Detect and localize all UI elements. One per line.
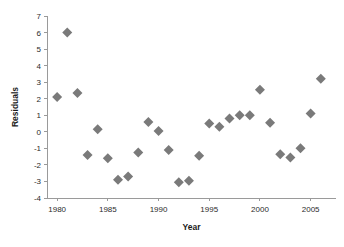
data-point: [62, 28, 72, 38]
data-point: [275, 149, 285, 159]
y-axis-group: -4-3-2-101234567: [34, 12, 47, 203]
data-point: [285, 152, 295, 162]
data-point: [296, 143, 306, 153]
data-point: [154, 126, 164, 136]
y-axis-title: Residuals: [10, 87, 20, 127]
data-point: [194, 151, 204, 161]
x-axis-tick-labels: 198019851990199520002005: [48, 205, 320, 214]
data-point: [83, 150, 93, 160]
y-tick-label: -4: [34, 194, 42, 203]
y-tick-label: 3: [37, 78, 42, 87]
residuals-scatter-chart: -4-3-2-101234567 19801985199019952000200…: [0, 0, 344, 247]
data-point: [113, 175, 123, 185]
y-tick-label: 7: [37, 12, 42, 21]
data-point: [225, 114, 235, 124]
y-tick-label: -2: [34, 161, 42, 170]
y-tick-label: 1: [37, 111, 42, 120]
data-point: [245, 110, 255, 120]
y-tick-label: 2: [37, 95, 42, 104]
data-point: [255, 85, 265, 95]
y-tick-label: 4: [37, 62, 42, 71]
plot-area: -4-3-2-101234567 19801985199019952000200…: [0, 0, 344, 247]
data-point-series: [52, 28, 326, 188]
y-tick-label: 5: [37, 45, 42, 54]
x-axis-group: 198019851990199520002005: [47, 198, 336, 214]
x-tick-label: 2000: [251, 205, 269, 214]
data-point: [143, 117, 153, 127]
data-point: [123, 171, 133, 181]
x-tick-label: 2005: [302, 205, 320, 214]
y-axis-tick-labels: -4-3-2-101234567: [34, 12, 42, 203]
x-tick-label: 1985: [99, 205, 117, 214]
y-tick-label: 6: [37, 29, 42, 38]
y-tick-label: -3: [34, 177, 42, 186]
y-tick-label: 0: [37, 128, 42, 137]
x-tick-label: 1995: [200, 205, 218, 214]
x-tick-label: 1990: [150, 205, 168, 214]
data-point: [72, 88, 82, 98]
data-point: [306, 109, 316, 119]
data-point: [214, 122, 224, 132]
data-point: [164, 145, 174, 155]
data-point: [235, 110, 245, 120]
data-point: [184, 176, 194, 186]
data-point: [204, 119, 214, 129]
data-point: [174, 177, 184, 187]
data-point: [265, 118, 275, 128]
data-point: [93, 124, 103, 134]
y-tick-label: -1: [34, 144, 42, 153]
data-point: [52, 92, 62, 102]
data-point: [316, 74, 326, 84]
x-axis-title: Year: [183, 222, 202, 232]
data-point: [103, 153, 113, 163]
data-point: [133, 148, 143, 158]
x-tick-label: 1980: [48, 205, 66, 214]
